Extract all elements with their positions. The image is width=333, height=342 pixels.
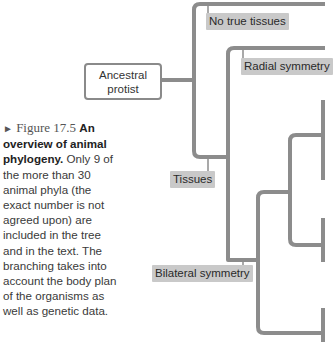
ancestral-protist-line2: protist [107, 82, 138, 96]
label-bilateral-symmetry: Bilateral symmetry [152, 265, 253, 282]
tissues-branch [228, 48, 325, 260]
ancestral-protist-node: Ancestral protist [84, 63, 162, 100]
label-tissues: Tissues [170, 171, 215, 188]
label-radial-symmetry: Radial symmetry [241, 58, 333, 75]
figure-caption: ► Figure 17.5 An overview of animal phyl… [3, 120, 121, 319]
ancestral-protist-line1: Ancestral [99, 68, 147, 82]
figure-number: Figure 17.5 [16, 120, 76, 135]
figure-caption-text: Only 9 of the more than 30 animal phyla … [3, 152, 116, 317]
label-no-true-tissues: No true tissues [206, 13, 289, 30]
caption-arrow-icon: ► [3, 123, 13, 134]
bilateral-subclade-branch [290, 135, 325, 245]
